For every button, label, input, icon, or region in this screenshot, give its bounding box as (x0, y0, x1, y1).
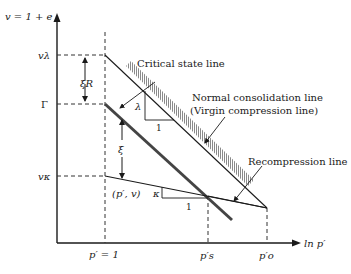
y-axis (54, 13, 61, 243)
y-axis-arrow-icon (54, 13, 61, 22)
normal-consolidation-line (105, 55, 267, 208)
state-point-label: (p′, v) (112, 188, 141, 199)
ncl-leader-arrow-icon (205, 117, 225, 143)
xi-label: ξ (118, 144, 124, 155)
critical-state-line (105, 104, 232, 220)
ncl-label-alt: (Virgin compression line) (190, 105, 318, 116)
state-diagram: v = 1 + e ln p′ vλ Γ vκ p′ = 1 p′s p′o C… (0, 0, 351, 274)
xi-r-label: ξR (80, 78, 94, 89)
rcl-label: Recompression line (248, 156, 348, 167)
kappa-run-label: 1 (186, 202, 192, 212)
x-axis-label: ln p′ (304, 238, 326, 249)
lambda-run-label: 1 (156, 123, 162, 133)
lambda-label: λ (134, 101, 141, 112)
x-tick-p-s: p′s (200, 250, 214, 261)
x-tick-p-unit: p′ = 1 (89, 249, 119, 260)
ncl-hatched-band (126, 61, 254, 186)
x-axis (57, 240, 301, 247)
csl-label: Critical state line (137, 58, 225, 69)
ncl-label: Normal consolidation line (192, 92, 323, 103)
x-tick-p-o: p′o (259, 250, 274, 261)
y-tick-v-kappa: vκ (38, 171, 51, 182)
kappa-label: κ (152, 188, 160, 199)
y-tick-v-lambda: vλ (38, 50, 50, 61)
x-axis-arrow-icon (292, 240, 301, 247)
y-tick-gamma: Γ (41, 99, 48, 110)
y-axis-label: v = 1 + e (5, 11, 52, 22)
